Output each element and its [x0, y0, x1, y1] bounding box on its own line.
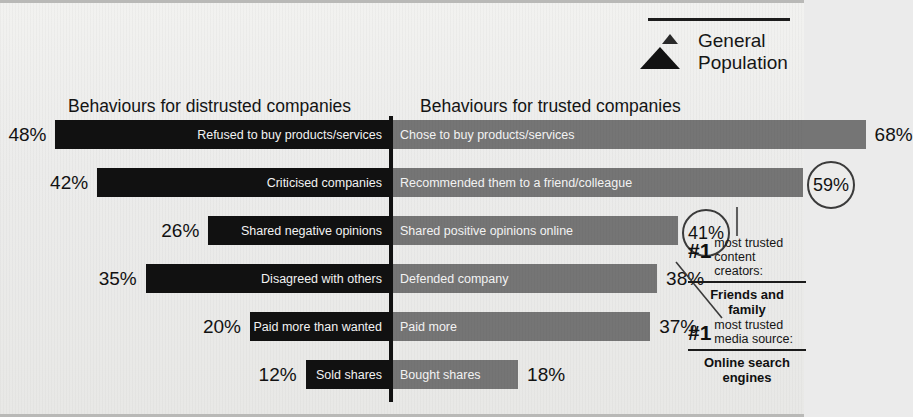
- column-heading-distrusted: Behaviours for distrusted companies: [68, 96, 351, 117]
- bar-label-distrusted: Shared negative opinions: [241, 224, 389, 238]
- bar-value-trusted: 68%: [875, 120, 913, 149]
- bar-value-distrusted: 12%: [259, 360, 297, 389]
- callout-divider: [688, 349, 806, 351]
- callout-line1: most trusted: [714, 318, 793, 332]
- callout-answer-line1: Online search: [688, 355, 806, 370]
- bar-distrusted: Shared negative opinions: [208, 216, 389, 245]
- bar-value-distrusted: 42%: [50, 168, 88, 197]
- callout-rank: #1: [688, 236, 711, 261]
- bar-trusted: Chose to buy products/services: [393, 120, 866, 149]
- callout-answer-line1: Friends and: [688, 287, 806, 302]
- bar-value-trusted-circled: 59%: [807, 161, 855, 209]
- bar-label-trusted: Chose to buy products/services: [393, 128, 574, 142]
- chart-row: Criticised companies42%Recommended them …: [0, 168, 804, 197]
- bar-distrusted: Sold shares: [306, 360, 389, 389]
- bar-label-trusted: Bought shares: [393, 368, 481, 382]
- bar-value-distrusted: 20%: [203, 312, 241, 341]
- bar-trusted: Shared positive opinions online: [393, 216, 678, 245]
- bar-trusted: Recommended them to a friend/colleague: [393, 168, 803, 197]
- bar-label-trusted: Paid more: [393, 320, 457, 334]
- bar-value-trusted: 18%: [527, 360, 565, 389]
- bar-label-distrusted: Criticised companies: [267, 176, 389, 190]
- callout-divider: [688, 281, 806, 283]
- legend-rule: [648, 18, 790, 21]
- callout-line2: media source:: [714, 332, 793, 346]
- callout-content-creators: #1 most trusted content creators: Friend…: [688, 236, 806, 317]
- chart-row: Sold shares12%Bought shares18%: [0, 360, 804, 389]
- callout-rank: #1: [688, 318, 711, 343]
- bar-distrusted: Refused to buy products/services: [55, 120, 389, 149]
- bar-label-trusted: Defended company: [393, 272, 508, 286]
- pyramid-icon: [648, 28, 692, 72]
- bar-trusted: Bought shares: [393, 360, 518, 389]
- bar-label-distrusted: Refused to buy products/services: [197, 128, 389, 142]
- legend: General Population: [648, 18, 790, 74]
- chart-row: Disagreed with others35%Defended company…: [0, 264, 804, 293]
- bar-label-distrusted: Paid more than wanted: [253, 320, 389, 334]
- callout-line1: most trusted: [714, 236, 806, 250]
- legend-label-line2: Population: [698, 52, 788, 74]
- chart-row: Refused to buy products/services48%Chose…: [0, 120, 804, 149]
- callout-answer-line2: family: [688, 302, 806, 317]
- bar-value-distrusted: 35%: [99, 264, 137, 293]
- bar-value-distrusted: 48%: [8, 120, 46, 149]
- bar-distrusted: Paid more than wanted: [250, 312, 389, 341]
- bar-label-trusted: Shared positive opinions online: [393, 224, 573, 238]
- bar-distrusted: Disagreed with others: [146, 264, 389, 293]
- center-axis-divider: [389, 116, 393, 402]
- bar-label-distrusted: Sold shares: [316, 368, 389, 382]
- legend-label-line1: General: [698, 30, 788, 52]
- bar-distrusted: Criticised companies: [97, 168, 389, 197]
- column-heading-trusted: Behaviours for trusted companies: [420, 96, 681, 117]
- bar-value-distrusted: 26%: [161, 216, 199, 245]
- bar-label-trusted: Recommended them to a friend/colleague: [393, 176, 632, 190]
- bar-trusted: Defended company: [393, 264, 657, 293]
- chart-row: Shared negative opinions26%Shared positi…: [0, 216, 804, 245]
- callout-media-source: #1 most trusted media source: Online sea…: [688, 318, 806, 385]
- chart-row: Paid more than wanted20%Paid more37%: [0, 312, 804, 341]
- callout-line2: content creators:: [714, 250, 806, 278]
- bar-trusted: Paid more: [393, 312, 650, 341]
- bar-label-distrusted: Disagreed with others: [261, 272, 389, 286]
- top-border: [0, 0, 804, 3]
- callout-answer-line2: engines: [688, 370, 806, 385]
